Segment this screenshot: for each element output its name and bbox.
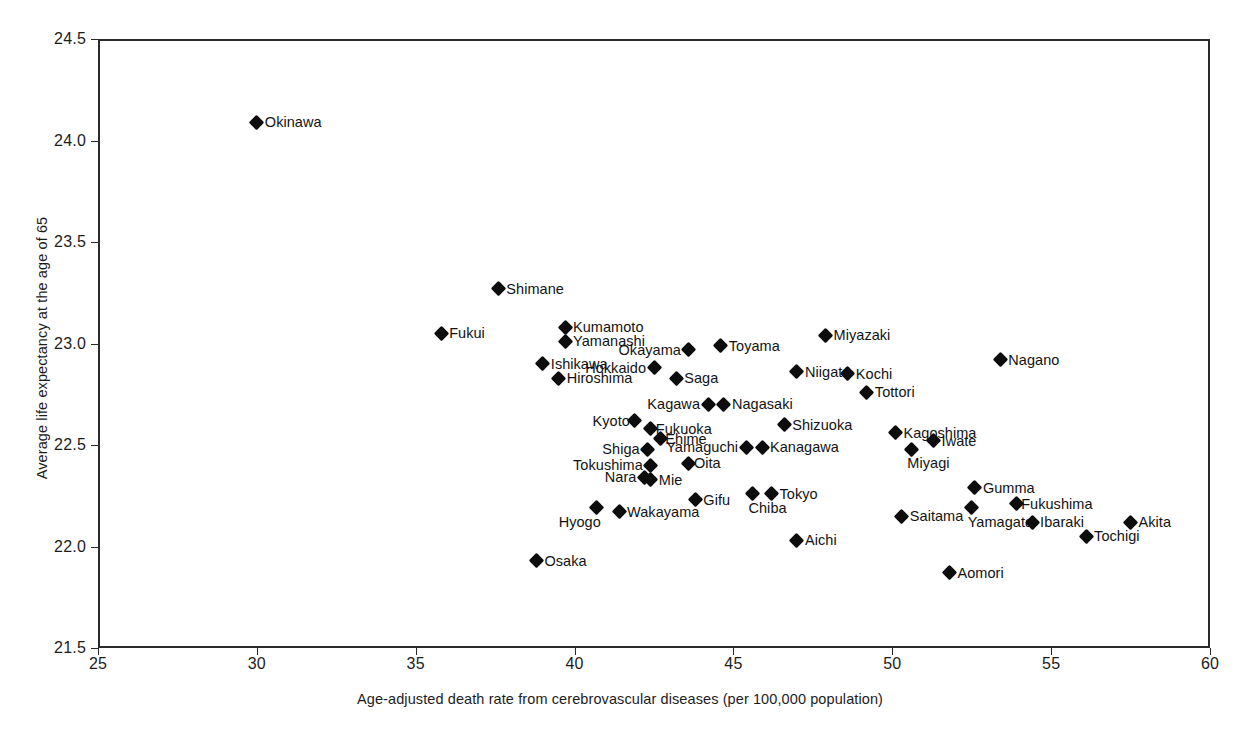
data-point-label: Tochigi — [1094, 529, 1140, 544]
x-tick-label: 25 — [68, 655, 128, 673]
data-point-label: Saitama — [910, 509, 964, 524]
data-point-label: Chiba — [748, 501, 786, 516]
scatter-chart: 2530354045505560 21.522.022.523.023.524.… — [0, 0, 1240, 733]
x-tick-mark — [1051, 648, 1052, 655]
data-point-label: Shimane — [506, 282, 564, 297]
x-tick-mark — [257, 648, 258, 655]
data-point-label: Yamagata — [968, 515, 1033, 530]
data-point-label: Mie — [659, 473, 683, 488]
x-tick-mark — [416, 648, 417, 655]
data-point-label: Wakayama — [627, 505, 699, 520]
data-point-label: Kyoto — [593, 414, 630, 429]
y-tick-mark — [91, 242, 98, 243]
data-point-label: Akita — [1139, 515, 1172, 530]
x-tick-label: 30 — [227, 655, 287, 673]
x-tick-label: 45 — [703, 655, 763, 673]
y-tick-label: 24.5 — [26, 30, 86, 48]
data-point-label: Hiroshima — [567, 371, 633, 386]
data-point-label: Gifu — [703, 493, 730, 508]
data-point-label: Hyogo — [559, 515, 601, 530]
data-point-label: Okinawa — [265, 115, 322, 130]
data-point-label: Miyagi — [907, 456, 949, 471]
x-tick-mark — [733, 648, 734, 655]
data-point-label: Shiga — [602, 442, 639, 457]
x-tick-label: 40 — [545, 655, 605, 673]
x-tick-mark — [575, 648, 576, 655]
y-tick-mark — [91, 648, 98, 649]
x-tick-label: 60 — [1180, 655, 1240, 673]
data-point-label: Aichi — [805, 533, 837, 548]
data-point-label: Nagano — [1008, 353, 1059, 368]
x-tick-mark — [98, 648, 99, 655]
data-point-label: Aomori — [957, 566, 1003, 581]
x-tick-label: 55 — [1021, 655, 1081, 673]
x-tick-mark — [1210, 648, 1211, 655]
x-axis-title: Age-adjusted death rate from cerebrovasc… — [0, 691, 1240, 707]
data-point-label: Kochi — [856, 367, 893, 382]
data-point-label: Iwate — [942, 434, 977, 449]
data-point-label: Toyama — [729, 339, 780, 354]
x-tick-mark — [892, 648, 893, 655]
data-point-label: Fukushima — [1021, 497, 1092, 512]
data-point-label: Ibaraki — [1040, 515, 1084, 530]
data-point-label: Kagawa — [647, 397, 700, 412]
y-tick-mark — [91, 445, 98, 446]
y-tick-mark — [91, 547, 98, 548]
x-tick-label: 50 — [862, 655, 922, 673]
y-tick-mark — [91, 141, 98, 142]
x-tick-label: 35 — [386, 655, 446, 673]
data-point-label: Yamaguchi — [666, 440, 738, 455]
data-point-label: Fukui — [449, 326, 485, 341]
y-tick-mark — [91, 39, 98, 40]
data-point-label: Kanagawa — [770, 440, 839, 455]
y-tick-mark — [91, 344, 98, 345]
data-point-label: Tottori — [875, 385, 915, 400]
data-point-label: Shizuoka — [792, 418, 852, 433]
data-point-label: Miyazaki — [834, 328, 891, 343]
data-point-label: Osaka — [544, 554, 586, 569]
data-point-label: Okayama — [619, 343, 681, 358]
y-axis-title: Average life expectancy at the age of 65 — [34, 48, 50, 648]
data-point-label: Nara — [605, 470, 637, 485]
data-point-label: Saga — [684, 371, 718, 386]
data-point-label: Oita — [694, 456, 721, 471]
data-point-label: Nagasaki — [732, 397, 793, 412]
data-point-label: Gumma — [983, 481, 1035, 496]
